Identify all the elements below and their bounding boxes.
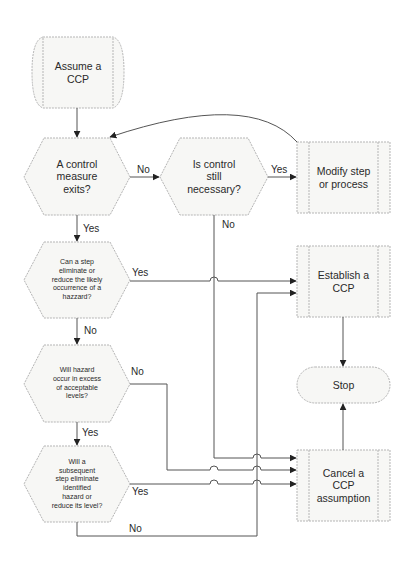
q4-decision: Will hazard occur in excess of acceptabl… — [34, 345, 120, 422]
label-q4-yes: Yes — [82, 427, 98, 438]
edge-q5-cancel — [130, 480, 296, 484]
label-q1-no: No — [137, 164, 150, 175]
start-node: Assume a CCP — [43, 37, 113, 108]
edge-q3-establish — [130, 277, 296, 281]
cancel-node: Cancel a CCP assumption — [309, 450, 378, 521]
label-q2-yes: Yes — [271, 164, 287, 175]
q2-decision: Is control still necessary? — [170, 138, 258, 215]
label-q2-no: No — [222, 219, 235, 230]
modify-node: Modify step or process — [309, 142, 378, 213]
edge-q2-cancel — [214, 215, 296, 458]
stop-node: Stop — [297, 367, 390, 403]
label-q5-yes: Yes — [132, 486, 148, 497]
label-q3-yes: Yes — [132, 267, 148, 278]
edge-q4-cancel — [130, 384, 296, 470]
label-q1-yes: Yes — [83, 223, 99, 234]
q3-decision: Can a step eliminate or reduce the likel… — [34, 242, 120, 318]
establish-node: Establish a CCP — [309, 246, 378, 317]
label-q5-no: No — [129, 523, 142, 534]
q5-decision: Will a subsequent step eliminate identif… — [34, 446, 120, 522]
label-q3-no: No — [84, 325, 97, 336]
label-q4-no: No — [131, 366, 144, 377]
q1-decision: A control measure exits? — [34, 138, 120, 215]
